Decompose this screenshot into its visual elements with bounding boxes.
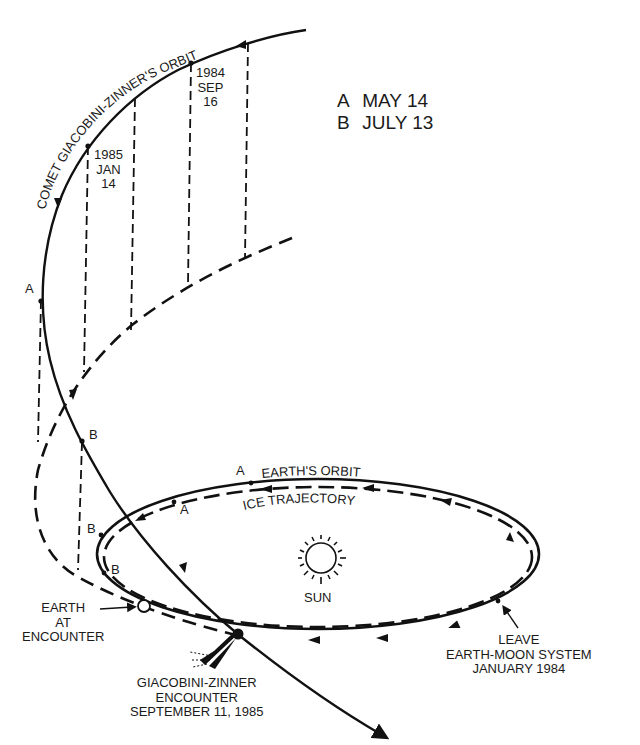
date-year: 1985 [94, 148, 123, 163]
label-line: AT [22, 616, 104, 631]
sun-icon [298, 535, 346, 584]
earth-at-encounter-label: EARTH AT ENCOUNTER [22, 601, 104, 645]
leave-system-label: LEAVE EARTH-MOON SYSTEM JANUARY 1984 [446, 633, 592, 677]
date-month: SEP [196, 81, 225, 96]
date-month: JAN [94, 163, 123, 178]
date-day: 14 [94, 177, 123, 192]
legend-label: MAY 14 [362, 90, 428, 111]
earth-pointer [100, 607, 132, 609]
comet-orbit-projection [35, 238, 292, 636]
marker-b-earth: B [87, 522, 96, 537]
label-line: JANUARY 1984 [446, 662, 592, 677]
earth-icon [138, 600, 150, 612]
marker-b-ice: B [111, 563, 120, 578]
marker-dots [38, 60, 500, 603]
date-year: 1984 [196, 66, 225, 81]
label-line: GIACOBINI-ZINNER [130, 676, 263, 691]
label-line: LEAVE [446, 633, 592, 648]
drop-lines [38, 43, 248, 570]
comet-encounter-icon [190, 629, 244, 670]
label-line: ENCOUNTER [130, 691, 263, 706]
legend-item-a: A MAY 14 [337, 90, 433, 112]
gz-encounter-label: GIACOBINI-ZINNER ENCOUNTER SEPTEMBER 11,… [130, 676, 263, 720]
sun-label: SUN [304, 591, 331, 606]
marker-a-ice: A [180, 503, 189, 518]
legend: A MAY 14 B JULY 13 [337, 90, 433, 134]
legend-key: A [337, 90, 357, 112]
date-label-1985: 1985 JAN 14 [94, 148, 123, 192]
legend-key: B [337, 112, 357, 134]
legend-label: JULY 13 [362, 112, 433, 133]
legend-item-b: B JULY 13 [337, 112, 433, 134]
marker-a-comet: A [25, 282, 34, 297]
label-line: EARTH [22, 601, 104, 616]
date-day: 16 [196, 95, 225, 110]
ice-trajectory-label: ICE TRAJECTORY [241, 490, 356, 512]
marker-a-earth: A [236, 464, 245, 479]
label-line: ENCOUNTER [22, 630, 104, 645]
label-line: SEPTEMBER 11, 1985 [130, 705, 263, 720]
date-label-1984: 1984 SEP 16 [196, 66, 225, 110]
marker-b-comet: B [89, 428, 98, 443]
label-line: EARTH-MOON SYSTEM [446, 648, 592, 663]
leave-pointer [505, 609, 518, 628]
